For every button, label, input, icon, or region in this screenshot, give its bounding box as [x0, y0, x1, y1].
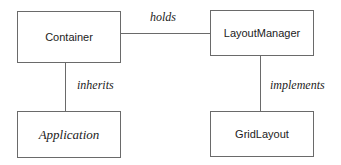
- node-container: Container: [17, 11, 121, 63]
- edge-label-holds: holds: [150, 10, 176, 25]
- node-application-label: Application: [39, 127, 100, 143]
- node-gridlayout: GridLayout: [210, 111, 314, 157]
- node-gridlayout-label: GridLayout: [235, 128, 289, 140]
- node-container-label: Container: [45, 31, 93, 43]
- edge-label-implements: implements: [270, 78, 325, 93]
- node-layoutmanager: LayoutManager: [210, 10, 314, 56]
- node-layoutmanager-label: LayoutManager: [224, 27, 300, 39]
- edge-holds-line: [120, 33, 210, 34]
- edge-implements-line: [260, 56, 261, 111]
- node-application: Application: [17, 111, 121, 158]
- edge-label-inherits: inherits: [77, 78, 114, 93]
- edge-inherits-line: [65, 63, 66, 111]
